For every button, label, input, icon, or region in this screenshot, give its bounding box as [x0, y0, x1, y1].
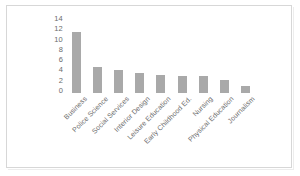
bar-slot — [66, 21, 87, 93]
chart-screenshot: 14 12 10 8 6 4 2 0 Business Police Scien… — [0, 0, 300, 176]
bar-social-services — [114, 70, 123, 93]
bar-slot — [150, 21, 171, 93]
y-axis-tick: 14 — [54, 15, 63, 23]
bar-business — [72, 32, 81, 93]
bar-interior-design — [135, 73, 144, 93]
y-axis: 14 12 10 8 6 4 2 0 — [47, 15, 63, 99]
y-axis-tick: 8 — [59, 46, 63, 54]
bar-nursing — [199, 76, 208, 93]
bar-series — [66, 21, 256, 93]
y-axis-tick: 4 — [59, 66, 63, 74]
y-axis-tick: 12 — [54, 25, 63, 33]
bar-slot — [87, 21, 108, 93]
bar-slot — [108, 21, 129, 93]
plot-area — [66, 21, 256, 93]
x-axis-labels: Business Police Science Social Services … — [66, 95, 266, 155]
bar-police-science — [93, 67, 102, 93]
bar-slot — [129, 21, 150, 93]
y-axis-tick: 10 — [54, 36, 63, 44]
bar-physical-education — [220, 80, 229, 93]
y-axis-tick: 2 — [59, 77, 63, 85]
bar-slot — [214, 21, 235, 93]
bar-leisure-education — [156, 75, 165, 93]
bar-journalism — [241, 86, 250, 93]
y-axis-tick: 0 — [59, 87, 63, 95]
bar-early-childhood-ed — [178, 76, 187, 93]
bar-slot — [235, 21, 256, 93]
bar-slot — [171, 21, 192, 93]
y-axis-tick: 6 — [59, 56, 63, 64]
bar-slot — [193, 21, 214, 93]
